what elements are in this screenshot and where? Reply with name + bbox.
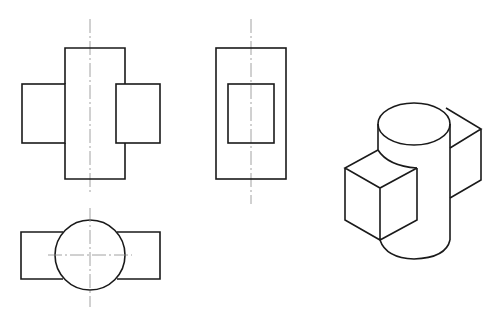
top-view [21,208,160,307]
front-view-right-block [116,84,160,143]
iso-cylinder-bottom [380,240,450,259]
top-view-right-block [117,232,160,279]
iso-right-block [446,108,481,198]
front-view-left-block [22,84,65,143]
iso-left-block [345,150,417,240]
front-view [22,19,160,195]
top-view-left-block [21,232,63,279]
iso-intersection-curve [378,150,417,168]
technical-drawing [0,0,498,325]
side-view [216,19,286,204]
isometric-view [345,103,481,259]
iso-cylinder-top [378,103,450,145]
